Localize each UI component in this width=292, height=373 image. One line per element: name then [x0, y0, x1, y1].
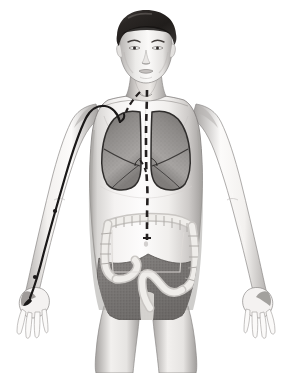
right-finger-3	[252, 312, 258, 338]
left-pupil	[133, 47, 136, 50]
navel	[144, 241, 148, 247]
catheter-node-1	[53, 209, 57, 213]
anatomy-canvas	[0, 0, 292, 373]
mouth	[139, 70, 153, 74]
anatomy-illustration	[0, 0, 292, 373]
left-finger-3	[34, 312, 40, 338]
right-pupil	[156, 47, 159, 50]
catheter-node-2	[33, 275, 37, 279]
